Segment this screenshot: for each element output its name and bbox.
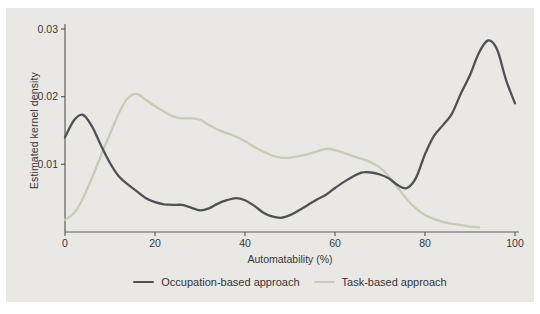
task-line-swatch bbox=[314, 281, 335, 284]
figure: 0204060801000.010.020.03 Estimated kerne… bbox=[0, 0, 540, 314]
y-tick-label: 0.01 bbox=[38, 158, 59, 170]
kernel-density-plot: 0204060801000.010.020.03 bbox=[0, 0, 540, 314]
x-tick-label: 80 bbox=[419, 237, 431, 249]
occupation-based-curve bbox=[65, 40, 515, 217]
legend: Occupation-based approach Task-based app… bbox=[65, 276, 515, 288]
x-tick-label: 40 bbox=[239, 237, 251, 249]
x-axis-title: Automatability (%) bbox=[65, 253, 515, 265]
task-based-curve bbox=[65, 94, 479, 227]
x-tick-label: 20 bbox=[149, 237, 161, 249]
legend-label-occupation: Occupation-based approach bbox=[161, 276, 299, 288]
legend-item-task: Task-based approach bbox=[314, 276, 447, 288]
y-tick-label: 0.03 bbox=[38, 23, 59, 35]
occupation-line-swatch bbox=[133, 281, 154, 284]
x-tick-label: 100 bbox=[506, 237, 524, 249]
x-tick-label: 0 bbox=[62, 237, 68, 249]
legend-label-task: Task-based approach bbox=[342, 276, 447, 288]
x-tick-label: 60 bbox=[329, 237, 341, 249]
y-tick-label: 0.02 bbox=[38, 90, 59, 102]
legend-item-occupation: Occupation-based approach bbox=[133, 276, 299, 288]
